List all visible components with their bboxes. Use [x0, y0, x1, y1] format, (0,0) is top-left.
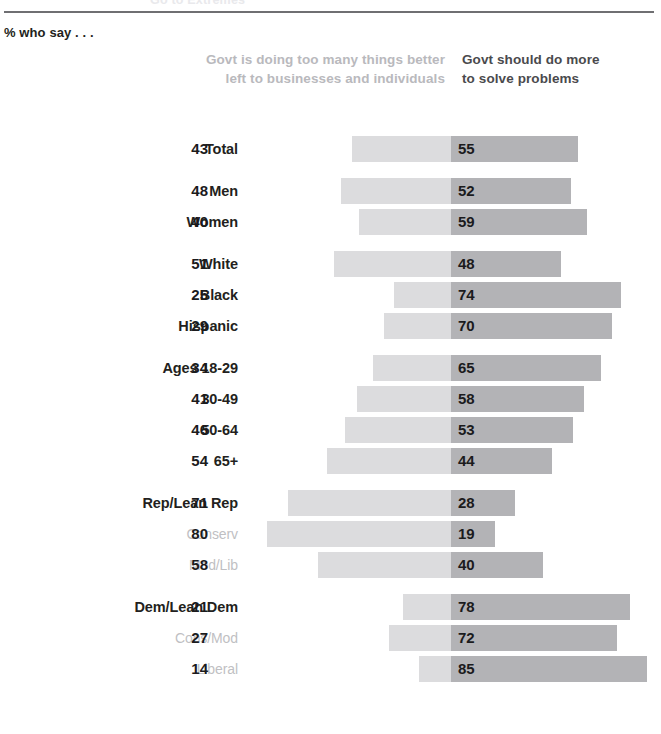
chart-subtitle: % who say . . .: [4, 25, 94, 40]
value-label-left: 34: [191, 355, 208, 381]
chart-row: Cons/Mod2772: [0, 625, 661, 651]
chart-row: 65+5444: [0, 448, 661, 474]
bar-left: [359, 209, 451, 235]
bar-left: [267, 521, 451, 547]
value-label-right: 59: [458, 209, 475, 235]
row-bars: 4158: [0, 386, 661, 412]
chart-row: Men4852: [0, 178, 661, 204]
bar-right: [451, 282, 621, 308]
legend-label-right: Govt should do more to solve problems: [462, 50, 612, 88]
bar-left: [318, 552, 451, 578]
bar-left: [352, 136, 451, 162]
row-bars: 5444: [0, 448, 661, 474]
bar-right: [451, 594, 630, 620]
bar-left: [334, 251, 451, 277]
row-bars: 8019: [0, 521, 661, 547]
value-label-right: 28: [458, 490, 475, 516]
value-label-right: 74: [458, 282, 475, 308]
bar-left: [403, 594, 451, 620]
bar-right: [451, 625, 617, 651]
value-label-right: 85: [458, 656, 475, 682]
chart-row: White5148: [0, 251, 661, 277]
chart-row: Dem/Lean Dem2178: [0, 594, 661, 620]
row-bars: 4355: [0, 136, 661, 162]
value-label-right: 48: [458, 251, 475, 277]
value-label-left: 41: [191, 386, 208, 412]
row-bars: 2970: [0, 313, 661, 339]
chart-row: Conserv8019: [0, 521, 661, 547]
value-label-right: 72: [458, 625, 475, 651]
chart-plot-area: Total4355Men4852Women4059White5148Black2…: [0, 136, 661, 687]
value-label-left: 51: [191, 251, 208, 277]
row-bars: 4852: [0, 178, 661, 204]
row-bars: 2772: [0, 625, 661, 651]
row-bars: 1485: [0, 656, 661, 682]
row-bars: 4059: [0, 209, 661, 235]
value-label-right: 70: [458, 313, 475, 339]
legend-label-left: Govt is doing too many things better lef…: [185, 50, 445, 88]
chart-row: Hispanic2970: [0, 313, 661, 339]
chart-row: Liberal1485: [0, 656, 661, 682]
value-label-right: 52: [458, 178, 475, 204]
row-bars: 2574: [0, 282, 661, 308]
value-label-left: 71: [191, 490, 208, 516]
value-label-left: 80: [191, 521, 208, 547]
chart-row: 50-644653: [0, 417, 661, 443]
bar-left: [288, 490, 451, 516]
bar-left: [357, 386, 451, 412]
row-bars: 7128: [0, 490, 661, 516]
bar-right: [451, 313, 612, 339]
value-label-left: 27: [191, 625, 208, 651]
value-label-left: 58: [191, 552, 208, 578]
value-label-left: 14: [191, 656, 208, 682]
value-label-right: 53: [458, 417, 475, 443]
value-label-left: 54: [191, 448, 208, 474]
value-label-left: 48: [191, 178, 208, 204]
bar-left: [345, 417, 451, 443]
value-label-right: 55: [458, 136, 475, 162]
value-label-right: 19: [458, 521, 475, 547]
value-label-right: 65: [458, 355, 475, 381]
chart-row: Ages 18-293465: [0, 355, 661, 381]
value-label-right: 58: [458, 386, 475, 412]
chart-row: Total4355: [0, 136, 661, 162]
bar-left: [394, 282, 452, 308]
chart-row: Women4059: [0, 209, 661, 235]
value-label-left: 21: [191, 594, 208, 620]
bar-left: [389, 625, 451, 651]
bar-left: [384, 313, 451, 339]
value-label-left: 40: [191, 209, 208, 235]
value-label-left: 29: [191, 313, 208, 339]
row-bars: 3465: [0, 355, 661, 381]
bar-left: [373, 355, 451, 381]
value-label-right: 78: [458, 594, 475, 620]
row-bars: 5840: [0, 552, 661, 578]
chart-row: 30-494158: [0, 386, 661, 412]
chart-row: Mod/Lib5840: [0, 552, 661, 578]
bar-left: [419, 656, 451, 682]
value-label-left: 25: [191, 282, 208, 308]
row-bars: 5148: [0, 251, 661, 277]
chart-row: Rep/Lean Rep7128: [0, 490, 661, 516]
row-bars: 2178: [0, 594, 661, 620]
chart-page: { "header": { "clipped_title": "Go to Ex…: [0, 0, 661, 734]
value-label-left: 43: [191, 136, 208, 162]
row-bars: 4653: [0, 417, 661, 443]
bar-right: [451, 656, 647, 682]
value-label-right: 40: [458, 552, 475, 578]
clipped-headline: Go to Extremes: [150, 0, 245, 7]
header-rule: [4, 11, 654, 13]
value-label-left: 46: [191, 417, 208, 443]
chart-row: Black2574: [0, 282, 661, 308]
value-label-right: 44: [458, 448, 475, 474]
bar-left: [327, 448, 451, 474]
bar-left: [341, 178, 451, 204]
